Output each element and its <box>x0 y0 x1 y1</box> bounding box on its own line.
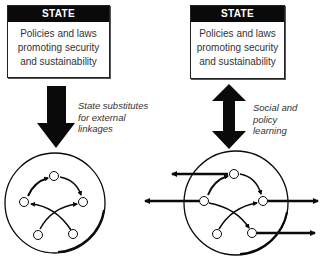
left-node-top <box>50 172 59 181</box>
down-arrow-icon <box>37 86 75 148</box>
left-node-left <box>20 198 29 207</box>
left-node-bottom-right <box>69 230 78 239</box>
left-node-bottom-left <box>34 231 43 240</box>
right-node-left <box>200 197 209 206</box>
right-network <box>145 151 318 255</box>
double-arrow-icon <box>212 84 246 149</box>
left-network <box>5 153 105 253</box>
network-diagram <box>0 0 322 271</box>
right-node-right <box>259 197 268 206</box>
right-node-top <box>230 170 239 179</box>
left-node-right <box>79 198 88 207</box>
right-node-bottom-left <box>213 230 222 239</box>
right-node-bottom-right <box>248 229 257 238</box>
